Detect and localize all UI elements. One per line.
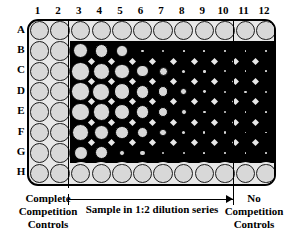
well-H6[interactable] bbox=[133, 164, 152, 183]
well-A10[interactable] bbox=[215, 21, 234, 40]
caption-no-competition-line-1: No bbox=[208, 192, 300, 205]
well-B6[interactable] bbox=[141, 50, 144, 53]
well-E2[interactable] bbox=[50, 102, 69, 121]
well-H2[interactable] bbox=[50, 164, 69, 183]
well-D1[interactable] bbox=[30, 82, 49, 101]
row-header-E: E bbox=[14, 104, 28, 116]
well-C7[interactable] bbox=[159, 67, 168, 76]
well-G10[interactable] bbox=[224, 152, 226, 154]
well-G5[interactable] bbox=[119, 150, 125, 156]
well-D10[interactable] bbox=[224, 91, 226, 93]
well-D11[interactable] bbox=[244, 91, 246, 93]
plate-figure: 123456789101112 ABCDEFGH CompleteCompeti… bbox=[0, 0, 302, 248]
well-D5[interactable] bbox=[114, 83, 131, 100]
well-G1[interactable] bbox=[30, 143, 49, 162]
well-H12[interactable] bbox=[256, 164, 275, 183]
well-H4[interactable] bbox=[92, 164, 111, 183]
plate-well-grid bbox=[29, 21, 274, 184]
well-H10[interactable] bbox=[215, 164, 234, 183]
well-A1[interactable] bbox=[30, 21, 49, 40]
well-G2[interactable] bbox=[50, 143, 69, 162]
well-E4[interactable] bbox=[93, 103, 110, 120]
region-divider-right-line bbox=[233, 21, 234, 202]
well-H5[interactable] bbox=[112, 164, 131, 183]
well-C9[interactable] bbox=[203, 70, 206, 73]
well-H11[interactable] bbox=[236, 164, 255, 183]
well-F10[interactable] bbox=[224, 131, 226, 133]
well-E3[interactable] bbox=[71, 103, 89, 121]
caption-no-competition-line-3: Controls bbox=[208, 218, 300, 231]
well-G4[interactable] bbox=[95, 146, 108, 159]
microtiter-plate[interactable] bbox=[27, 19, 276, 186]
row-header-C: C bbox=[14, 63, 28, 75]
well-C3[interactable] bbox=[71, 62, 89, 80]
well-A9[interactable] bbox=[195, 21, 214, 40]
row-header-D: D bbox=[14, 84, 28, 96]
well-D9[interactable] bbox=[203, 90, 206, 93]
well-D4[interactable] bbox=[92, 83, 110, 101]
well-B7[interactable] bbox=[162, 50, 164, 52]
well-D2[interactable] bbox=[50, 82, 69, 101]
row-header-H: H bbox=[14, 165, 28, 177]
well-D8[interactable] bbox=[180, 88, 187, 95]
well-B10[interactable] bbox=[224, 50, 226, 52]
row-header-G: G bbox=[14, 145, 28, 157]
caption-dilution-series: Sample in 1:2 dilution series bbox=[76, 203, 228, 216]
well-B5[interactable] bbox=[116, 45, 128, 57]
well-E8[interactable] bbox=[181, 109, 187, 115]
row-header-A: A bbox=[14, 23, 28, 35]
caption-complete-competition-line-3: Controls bbox=[2, 218, 94, 231]
well-E6[interactable] bbox=[136, 105, 150, 119]
region-divider-left-line bbox=[68, 21, 69, 188]
row-header-B: B bbox=[14, 43, 28, 55]
well-A12[interactable] bbox=[256, 21, 275, 40]
well-G8[interactable] bbox=[183, 152, 185, 154]
well-B8[interactable] bbox=[183, 50, 185, 52]
well-C4[interactable] bbox=[93, 63, 110, 80]
well-A4[interactable] bbox=[92, 21, 111, 40]
well-B12[interactable] bbox=[265, 50, 267, 52]
well-C6[interactable] bbox=[136, 65, 148, 77]
well-H1[interactable] bbox=[30, 164, 49, 183]
well-A2[interactable] bbox=[50, 21, 69, 40]
caption-no-competition: NoCompetitionControls bbox=[208, 192, 300, 231]
well-F2[interactable] bbox=[50, 123, 69, 142]
well-G3[interactable] bbox=[74, 146, 88, 160]
well-G6[interactable] bbox=[140, 151, 144, 155]
well-D12[interactable] bbox=[265, 91, 267, 93]
well-G12[interactable] bbox=[265, 152, 267, 154]
well-A7[interactable] bbox=[153, 21, 172, 40]
well-D3[interactable] bbox=[71, 82, 89, 100]
row-header-F: F bbox=[14, 125, 28, 137]
well-C1[interactable] bbox=[30, 62, 49, 81]
well-B4[interactable] bbox=[95, 44, 109, 58]
well-B2[interactable] bbox=[50, 41, 69, 60]
well-B1[interactable] bbox=[30, 41, 49, 60]
well-H9[interactable] bbox=[195, 164, 214, 183]
well-C5[interactable] bbox=[114, 64, 130, 80]
well-B9[interactable] bbox=[203, 50, 205, 52]
well-A5[interactable] bbox=[112, 21, 131, 40]
well-F1[interactable] bbox=[30, 123, 49, 142]
well-D6[interactable] bbox=[136, 85, 150, 99]
well-E1[interactable] bbox=[30, 102, 49, 121]
well-E12[interactable] bbox=[265, 111, 267, 113]
well-H7[interactable] bbox=[153, 164, 172, 183]
well-G9[interactable] bbox=[203, 152, 205, 154]
caption-no-competition-line-2: Competition bbox=[208, 205, 300, 218]
well-F5[interactable] bbox=[115, 126, 129, 140]
well-C2[interactable] bbox=[50, 62, 69, 81]
